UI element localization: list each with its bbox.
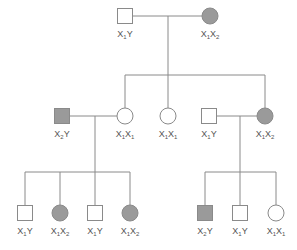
genotype-label: X1Y bbox=[201, 129, 216, 140]
genotype-label: X1X1 bbox=[267, 226, 286, 237]
affected-male-square-icon bbox=[198, 206, 213, 221]
male-square-icon bbox=[18, 206, 33, 221]
individual-g3-right-daughter: X1X1 bbox=[267, 205, 286, 237]
affected-male-square-icon bbox=[55, 109, 70, 124]
individual-g2-daughter-3: X1X2 bbox=[256, 108, 275, 140]
individual-g1-father: X1Y bbox=[117, 9, 132, 41]
pedigree-individuals: X1YX1X2X2YX1X1X1X1X1YX1X2X1YX1X2X1YX1X2X… bbox=[17, 8, 286, 237]
affected-female-circle-icon bbox=[122, 205, 138, 221]
genotype-label: X1X2 bbox=[201, 29, 220, 40]
male-square-icon bbox=[88, 206, 103, 221]
affected-female-circle-icon bbox=[52, 205, 68, 221]
genotype-label: X1Y bbox=[17, 226, 32, 237]
individual-g2-husband-right: X1Y bbox=[201, 109, 216, 141]
pedigree-diagram: X1YX1X2X2YX1X1X1X1X1YX1X2X1YX1X2X1YX1X2X… bbox=[0, 0, 297, 250]
genotype-label: X1Y bbox=[117, 29, 132, 40]
female-circle-icon bbox=[160, 108, 176, 124]
male-square-icon bbox=[233, 206, 248, 221]
female-circle-icon bbox=[117, 108, 133, 124]
genotype-label: X1Y bbox=[232, 226, 247, 237]
male-square-icon bbox=[118, 9, 133, 24]
affected-female-circle-icon bbox=[257, 108, 273, 124]
individual-g3-left-son-1: X1Y bbox=[17, 206, 32, 238]
individual-g3-right-son-1: X2Y bbox=[197, 206, 212, 238]
genotype-label: X1X1 bbox=[116, 129, 135, 140]
affected-female-circle-icon bbox=[202, 8, 218, 24]
genotype-label: X1X2 bbox=[51, 226, 70, 237]
genotype-label: X1X2 bbox=[256, 129, 275, 140]
individual-g3-left-daughter-1: X1X2 bbox=[51, 205, 70, 237]
genotype-label: X1Y bbox=[87, 226, 102, 237]
individual-g2-husband-left: X2Y bbox=[54, 109, 69, 141]
individual-g1-mother: X1X2 bbox=[201, 8, 220, 40]
genotype-label: X1X2 bbox=[121, 226, 140, 237]
individual-g3-left-son-2: X1Y bbox=[87, 206, 102, 238]
genotype-label: X2Y bbox=[54, 129, 69, 140]
genotype-label: X2Y bbox=[197, 226, 212, 237]
male-square-icon bbox=[202, 109, 217, 124]
individual-g3-right-son-2: X1Y bbox=[232, 206, 247, 238]
individual-g2-daughter-1: X1X1 bbox=[116, 108, 135, 140]
individual-g3-left-daughter-2: X1X2 bbox=[121, 205, 140, 237]
female-circle-icon bbox=[268, 205, 284, 221]
genotype-label: X1X1 bbox=[159, 129, 178, 140]
individual-g2-daughter-2: X1X1 bbox=[159, 108, 178, 140]
